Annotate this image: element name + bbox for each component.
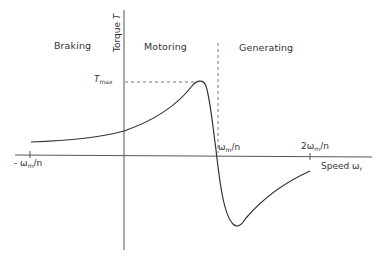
torque-axis-label: Torque T bbox=[113, 14, 122, 52]
speed-axis-label: Speed ωr bbox=[321, 162, 362, 172]
tick-label-sync: ωm/n bbox=[218, 143, 240, 153]
speed-axis-label-sub: r bbox=[360, 165, 362, 172]
tick-label-neg-sync: - ωm/n bbox=[14, 159, 42, 169]
tick-double-prefix: 2ω bbox=[301, 141, 314, 151]
speed-axis bbox=[15, 155, 372, 157]
tmax-label: Tmax bbox=[94, 75, 113, 85]
tick-sync-suffix: /n bbox=[231, 142, 240, 152]
generating-label: Generating bbox=[239, 43, 293, 53]
tick-neg-prefix: - ω bbox=[14, 158, 28, 168]
speed-axis-label-text: Speed bbox=[321, 161, 352, 171]
torque-axis-label-symbol: T bbox=[112, 14, 122, 20]
tmax-subscript: max bbox=[100, 78, 113, 85]
motoring-label: Motoring bbox=[144, 42, 187, 52]
torque-curve bbox=[31, 81, 310, 226]
tick-sync-prefix: ω bbox=[218, 142, 226, 152]
tick-label-double-sync: 2ωm/n bbox=[301, 142, 329, 152]
torque-speed-diagram: Braking Motoring Generating Torque T Tma… bbox=[0, 0, 384, 263]
tick-double-suffix: /n bbox=[320, 141, 329, 151]
tick-neg-suffix: /n bbox=[34, 158, 43, 168]
speed-axis-label-symbol: ω bbox=[352, 161, 360, 171]
torque-axis-label-text: Torque bbox=[112, 19, 122, 52]
braking-label: Braking bbox=[54, 41, 91, 51]
